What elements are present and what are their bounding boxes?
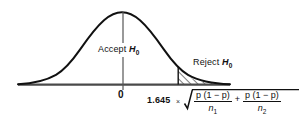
variance-term-2: p (1 − p) n2 (243, 90, 281, 115)
standard-error-expression: p (1 − p) n1 + p (1 − p) n2 (194, 90, 281, 115)
term1-numerator: p (1 − p) (194, 90, 232, 101)
multiplication-sign: × (176, 98, 180, 105)
variance-term-1: p (1 − p) n1 (194, 90, 232, 115)
term1-denominator: n1 (207, 102, 220, 115)
plus-sign: + (232, 94, 243, 104)
normal-curve-figure: Accept H0 Reject H0 0 1.645 × p (1 − p) … (0, 0, 301, 124)
reject-region-label: Reject H0 (193, 58, 232, 69)
reject-text: Reject (193, 57, 219, 67)
accept-region-label: Accept H0 (98, 45, 139, 56)
null-hypothesis-symbol-accept: H0 (129, 44, 139, 54)
accept-text: Accept (98, 44, 126, 54)
null-hypothesis-symbol-reject: H0 (222, 57, 232, 67)
origin-tick-label: 0 (118, 90, 124, 100)
term2-denominator: n2 (256, 102, 269, 115)
term2-numerator: p (1 − p) (243, 90, 281, 101)
critical-coefficient-label: 1.645 (147, 96, 171, 105)
